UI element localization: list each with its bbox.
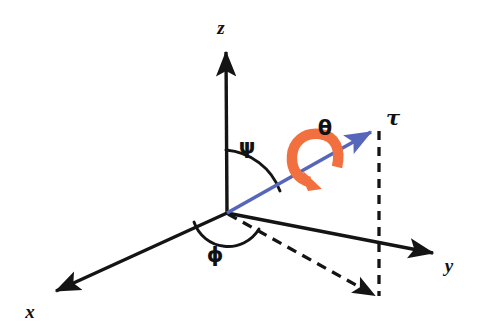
- angle-theta-label: θ: [318, 116, 332, 140]
- axis-z-label: z: [216, 17, 225, 38]
- vector-tau-label: τ: [386, 105, 401, 130]
- axis-x-label: x: [24, 301, 35, 322]
- angle-phi-label: ϕ: [207, 243, 224, 267]
- coordinate-system-diagram: z x y ψ ϕ τ θ: [0, 0, 482, 328]
- axis-z-line: [226, 52, 227, 213]
- axis-y-label: y: [443, 255, 454, 276]
- angle-psi-label: ψ: [239, 135, 256, 159]
- figure-background: [0, 0, 482, 328]
